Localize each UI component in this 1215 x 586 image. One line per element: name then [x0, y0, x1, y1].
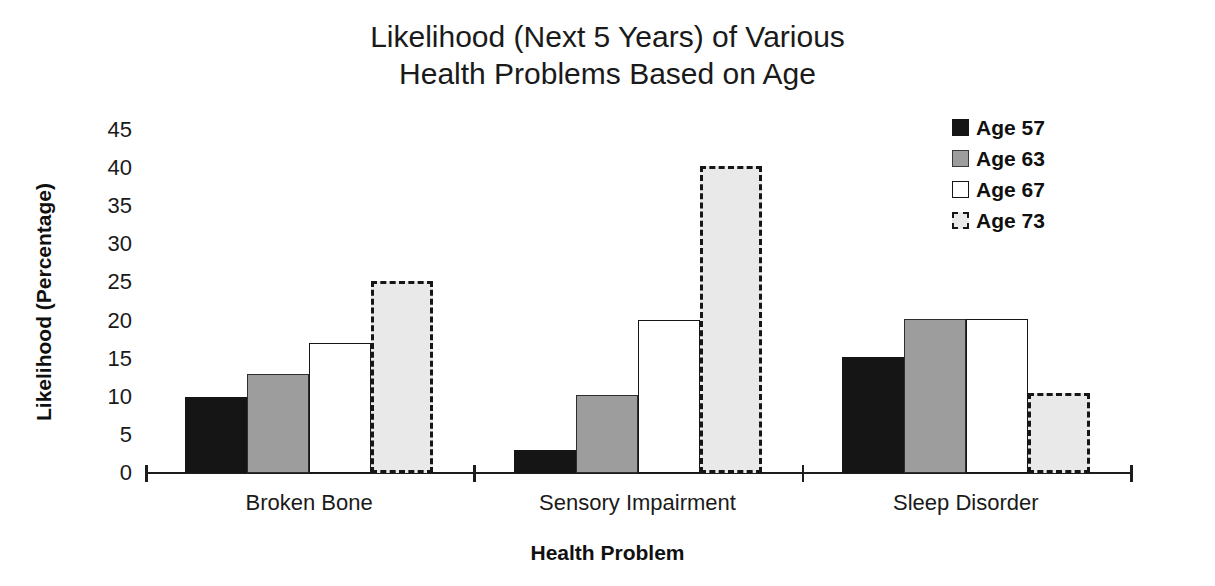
bar — [700, 166, 762, 473]
y-axis-title: Likelihood (Percentage) — [32, 137, 56, 467]
legend-item[interactable]: Age 67 — [952, 174, 1142, 205]
legend-swatch-icon — [952, 181, 969, 198]
legend-item[interactable]: Age 73 — [952, 205, 1142, 236]
legend-item-label: Age 67 — [976, 178, 1045, 202]
y-axis-tick-label: 5 — [72, 422, 132, 448]
bar — [576, 395, 638, 473]
legend-item-label: Age 73 — [976, 209, 1045, 233]
legend-item[interactable]: Age 57 — [952, 112, 1142, 143]
x-axis-tick — [1130, 465, 1133, 482]
bar — [842, 357, 904, 473]
bar — [371, 281, 433, 473]
legend-swatch-icon — [952, 212, 969, 229]
y-axis-tick-label: 15 — [72, 346, 132, 372]
y-axis-tick-label: 45 — [72, 117, 132, 143]
y-axis-tick-label: 0 — [72, 460, 132, 486]
legend-item-label: Age 63 — [976, 147, 1045, 171]
bar — [638, 320, 700, 473]
legend-swatch-icon — [952, 150, 969, 167]
chart-title: Likelihood (Next 5 Years) of Various Hea… — [0, 18, 1215, 92]
legend-swatch-icon — [952, 119, 969, 136]
bar — [1028, 393, 1090, 473]
bar — [247, 374, 309, 473]
chart-title-line-1: Likelihood (Next 5 Years) of Various — [0, 18, 1215, 55]
legend-item-label: Age 57 — [976, 116, 1045, 140]
bar — [514, 450, 576, 473]
legend-item[interactable]: Age 63 — [952, 143, 1142, 174]
bar — [309, 343, 371, 473]
y-axis-tick-label: 35 — [72, 193, 132, 219]
chart-title-line-2: Health Problems Based on Age — [0, 55, 1215, 92]
y-axis-tick-label: 20 — [72, 308, 132, 334]
y-axis-tick-label: 30 — [72, 231, 132, 257]
bar — [904, 319, 966, 473]
legend: Age 57 Age 63 Age 67 Age 73 — [952, 112, 1142, 236]
x-axis-title: Health Problem — [0, 541, 1215, 565]
x-axis-category-label: Sleep Disorder — [766, 490, 1166, 516]
y-axis-tick-label: 25 — [72, 269, 132, 295]
bar — [185, 397, 247, 473]
bar — [966, 319, 1028, 473]
y-axis-tick-label: 10 — [72, 384, 132, 410]
y-axis-tick-label: 40 — [72, 155, 132, 181]
bar-chart: Likelihood (Next 5 Years) of Various Hea… — [0, 0, 1215, 586]
